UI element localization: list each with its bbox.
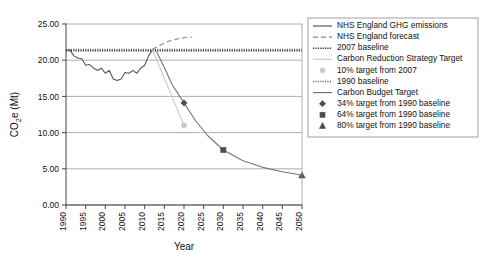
marker-64-target-from-1990-baseline [221, 147, 226, 152]
x-tick-label: 2045 [274, 212, 284, 231]
x-tick-label: 1990 [58, 212, 68, 231]
x-tick-label: 2050 [294, 212, 304, 231]
legend: NHS England GHG emissionsNHS England for… [308, 18, 478, 137]
x-tick-label: 2040 [255, 212, 265, 231]
x-tick-label: 2000 [97, 212, 107, 231]
y-tick-label: 10.00 [38, 128, 60, 138]
y-tick-label: 25.00 [38, 19, 60, 29]
series-nhs-england-forecast [153, 37, 192, 49]
chart-root: 0.005.0010.0015.0020.0025.00199019952000… [0, 0, 480, 258]
y-axis-title-text: CO2e (Mt) [9, 92, 23, 137]
x-tick-label: 2015 [156, 212, 166, 231]
legend-item: 34% target from 1990 baseline [319, 98, 450, 108]
y-axis-title: CO2e (Mt) [9, 92, 23, 137]
legend-item-label: Carbon Budget Target [337, 87, 419, 97]
x-axis-title-text: Year [174, 241, 195, 252]
series-carbon-reduction-strategy-target [153, 50, 184, 125]
series-nhs-england-ghg-emissions [66, 50, 153, 80]
legend-item-label: 10% target from 2007 [337, 65, 417, 75]
x-tick-label: 2025 [196, 212, 206, 231]
legend-marker-swatch [320, 112, 325, 117]
legend-item-label: Carbon Reduction Strategy Target [337, 53, 463, 63]
x-tick-label: 2020 [176, 212, 186, 231]
x-tick-label: 2035 [235, 212, 245, 231]
y-tick-label: 15.00 [38, 92, 60, 102]
emissions-chart: 0.005.0010.0015.0020.0025.00199019952000… [0, 0, 480, 258]
legend-item: 80% target from 1990 baseline [319, 120, 450, 130]
legend-item-label: 80% target from 1990 baseline [337, 120, 450, 130]
legend-item: 64% target from 1990 baseline [320, 109, 450, 119]
marker-34-target-from-1990-baseline [181, 100, 187, 106]
target-markers-layer [181, 100, 305, 178]
y-tick-label: 5.00 [42, 164, 59, 174]
legend-item-label: 1990 baseline [337, 76, 389, 86]
y-tick-label: 20.00 [38, 55, 60, 65]
x-tick-label: 2005 [117, 212, 127, 231]
x-tick-label: 1995 [78, 212, 88, 231]
legend-marker-swatch [320, 68, 325, 73]
axes: 0.005.0010.0015.0020.0025.00199019952000… [38, 19, 304, 231]
legend-item-label: 34% target from 1990 baseline [337, 98, 450, 108]
series-carbon-budget-target [156, 52, 302, 176]
x-tick-label: 2010 [137, 212, 147, 231]
x-tick-label: 2030 [215, 212, 225, 231]
marker-10-target-from-2007 [181, 123, 186, 128]
legend-item-label: 64% target from 1990 baseline [337, 109, 450, 119]
legend-item-label: 2007 baseline [337, 42, 389, 52]
x-axis-title: Year [174, 241, 195, 252]
y-tick-label: 0.00 [42, 200, 59, 210]
legend-item-label: NHS England forecast [337, 31, 420, 41]
legend-item-label: NHS England GHG emissions [337, 20, 448, 30]
